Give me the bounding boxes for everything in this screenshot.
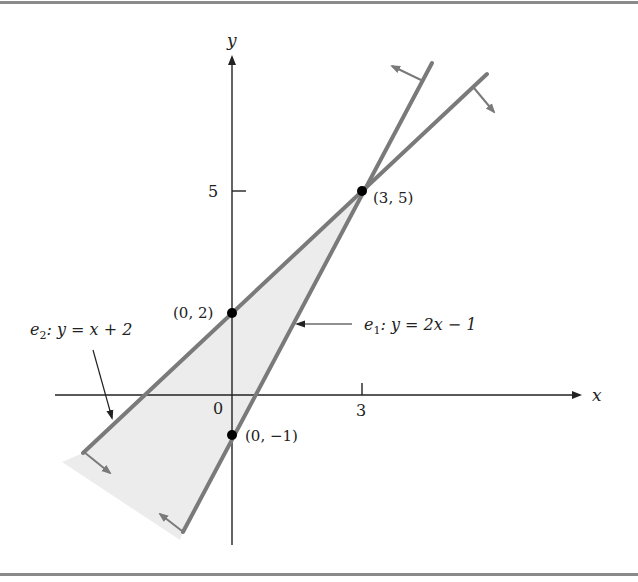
line-e2: [83, 74, 487, 453]
e1-subscript: 1: [373, 324, 380, 337]
x-axis-label: x: [592, 385, 602, 405]
point-label-0-2: (0, 2): [173, 304, 213, 322]
e2-equation-label: e2: y = x + 2: [30, 320, 132, 342]
e2-equation: : y = x + 2: [46, 320, 132, 339]
e1-top-direction-arrow-icon: [392, 66, 421, 80]
shaded-region: [62, 191, 362, 540]
e2-top-direction-arrow-icon: [474, 88, 494, 112]
e1-name: e: [364, 315, 373, 334]
point-label-0-neg1: (0, −1): [245, 427, 298, 445]
e1-equation-label: e1: y = 2x − 1: [364, 315, 477, 337]
diagram-canvas: y x 0 3 5 (3, 5) (0, 2) (0, −1) e1: y = …: [0, 0, 638, 582]
y-axis-label: y: [226, 30, 237, 50]
point-0-neg1: [227, 430, 237, 440]
e2-subscript: 2: [39, 329, 46, 342]
y-tick-label-5: 5: [208, 182, 218, 201]
e1-equation: : y = 2x − 1: [380, 315, 476, 334]
point-3-5: [357, 186, 367, 196]
e2-name: e: [30, 320, 39, 339]
point-0-2: [227, 308, 237, 318]
line-e1: [183, 63, 432, 532]
figure-frame: y x 0 3 5 (3, 5) (0, 2) (0, −1) e1: y = …: [0, 0, 638, 582]
origin-label: 0: [213, 399, 223, 418]
point-label-3-5: (3, 5): [373, 189, 413, 207]
e2-label-pointer-arrow-icon: [93, 350, 112, 418]
x-tick-label-3: 3: [356, 401, 366, 420]
